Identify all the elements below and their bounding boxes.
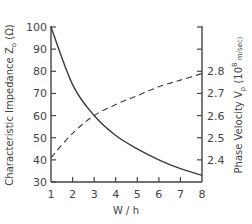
x-tick-label: 2: [69, 188, 76, 201]
left-tick-label: 70: [33, 87, 47, 100]
left-tick-label: 30: [33, 176, 47, 189]
x-tick-label: 1: [48, 188, 55, 201]
left-tick-label: 80: [33, 65, 47, 78]
right-tick-label: 2.4: [207, 154, 225, 167]
left-tick-label: 60: [33, 110, 47, 123]
x-tick-label: 7: [177, 188, 184, 201]
impedance-velocity-chart: 100908070605040302.82.72.62.52.412345678…: [0, 0, 252, 224]
left-tick-label: 50: [33, 132, 47, 145]
impedance-curve: [51, 27, 202, 175]
series: [51, 27, 202, 175]
right-tick-label: 2.6: [207, 110, 225, 123]
right-tick-label: 2.7: [207, 87, 225, 100]
x-tick-label: 3: [91, 188, 98, 201]
left-tick-label: 40: [33, 154, 47, 167]
left-tick-label: 90: [33, 43, 47, 56]
x-tick-label: 4: [112, 188, 119, 201]
x-tick-label: 6: [155, 188, 162, 201]
x-axis-title: W / h: [113, 205, 139, 216]
left-tick-label: 100: [26, 21, 47, 34]
left-axis-title: Characteristic Impedance Zo (Ω): [4, 24, 18, 185]
right-tick-label: 2.8: [207, 65, 225, 78]
right-axis-title: Phase Velocity Vp (108 m/sec): [231, 36, 247, 173]
right-tick-label: 2.5: [207, 132, 225, 145]
x-tick-label: 8: [199, 188, 206, 201]
axes: 100908070605040302.82.72.62.52.412345678: [26, 21, 225, 201]
x-tick-label: 5: [134, 188, 141, 201]
